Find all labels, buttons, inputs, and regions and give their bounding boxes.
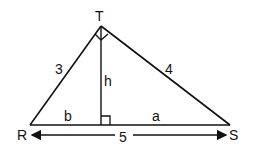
altitude-label: h <box>104 73 112 89</box>
vertex-label-t: T <box>95 8 104 24</box>
right-angle-mark-foot <box>101 116 110 125</box>
segment-label-a: a <box>152 108 160 124</box>
side-label-ts: 4 <box>165 61 173 77</box>
side-label-rt: 3 <box>55 61 63 77</box>
segment-label-b: b <box>64 108 72 124</box>
vertex-label-s: S <box>229 127 238 143</box>
side-label-rs: 5 <box>119 129 127 145</box>
vertex-label-r: R <box>17 127 27 143</box>
triangle-diagram: T R S 3 4 5 h b a <box>0 0 254 147</box>
